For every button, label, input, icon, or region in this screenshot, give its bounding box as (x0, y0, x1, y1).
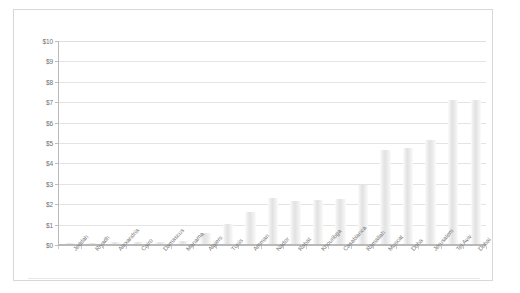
y-axis-tick-mark (55, 184, 58, 185)
bar (397, 40, 420, 244)
bar-rect (313, 200, 323, 244)
x-axis-tick-mark (373, 246, 374, 249)
y-axis-tick-label: $3 (46, 180, 53, 187)
y-axis-tick-label: $8 (46, 78, 53, 85)
bottom-rule (28, 278, 480, 279)
y-axis-tick-label: $4 (46, 160, 53, 167)
x-axis-tick-mark (396, 246, 397, 249)
y-axis: $0$1$2$3$4$5$6$7$8$9$10 (14, 10, 58, 280)
x-axis-tick-mark (171, 246, 172, 249)
bar (172, 40, 195, 244)
x-axis-tick-mark (58, 246, 59, 249)
bar (217, 40, 240, 244)
x-axis-tick-mark (418, 246, 419, 249)
y-axis-tick-label: $5 (46, 140, 53, 147)
y-axis-tick-label: $2 (46, 201, 53, 208)
bar-rect (425, 140, 435, 244)
x-axis-tick-mark (486, 246, 487, 249)
bar-rect (403, 148, 413, 244)
bar (149, 40, 172, 244)
x-axis-tick-mark (193, 246, 194, 249)
bar (307, 40, 330, 244)
y-axis-tick-label: $1 (46, 221, 53, 228)
bar-rect (133, 242, 143, 244)
x-axis-tick-mark (148, 246, 149, 249)
x-axis-tick-mark (328, 246, 329, 249)
x-axis-tick-mark (463, 246, 464, 249)
x-axis-tick-mark (261, 246, 262, 249)
bar-rect (178, 241, 188, 244)
bar-rect (471, 100, 481, 244)
y-axis-tick-mark (55, 143, 58, 144)
bar-rect (223, 224, 233, 244)
bar (104, 40, 127, 244)
y-axis-tick-label: $6 (46, 119, 53, 126)
bar-rect (290, 201, 300, 244)
bar (329, 40, 352, 244)
bar (262, 40, 285, 244)
x-axis-tick-mark (351, 246, 352, 249)
bar (419, 40, 442, 244)
bar-rect (110, 242, 120, 244)
x-axis-tick-mark (238, 246, 239, 249)
bar (239, 40, 262, 244)
y-axis-tick-mark (55, 61, 58, 62)
y-axis-tick-label: $0 (46, 242, 53, 249)
bar (442, 40, 465, 244)
x-axis-tick-mark (216, 246, 217, 249)
plot-area (58, 41, 486, 245)
y-axis-tick-mark (55, 163, 58, 164)
x-axis-labels: JeddahRiyadhAlexandriaCairoDamascusManam… (58, 246, 486, 292)
x-axis-tick-mark (103, 246, 104, 249)
bar (284, 40, 307, 244)
y-axis-tick-mark (55, 225, 58, 226)
y-axis-tick-label: $10 (42, 38, 53, 45)
x-axis-tick-mark (306, 246, 307, 249)
bar-rect (448, 100, 458, 244)
bar (59, 40, 82, 244)
y-axis-tick-mark (55, 102, 58, 103)
chart-frame: $0$1$2$3$4$5$6$7$8$9$10 JeddahRiyadhAlex… (13, 9, 493, 281)
x-axis-tick-mark (441, 246, 442, 249)
bar (374, 40, 397, 244)
x-axis-tick-mark (81, 246, 82, 249)
y-axis-tick-label: $9 (46, 58, 53, 65)
y-axis-tick-label: $7 (46, 99, 53, 106)
y-axis-tick-mark (55, 82, 58, 83)
y-axis-tick-mark (55, 123, 58, 124)
bar (464, 40, 487, 244)
y-axis-tick-mark (55, 41, 58, 42)
x-axis-tick-mark (283, 246, 284, 249)
y-axis-tick-mark (55, 204, 58, 205)
bar (352, 40, 375, 244)
bar (82, 40, 105, 244)
bar-rect (155, 242, 165, 244)
bar (127, 40, 150, 244)
x-axis-tick-mark (126, 246, 127, 249)
bar (194, 40, 217, 244)
bar-rect (245, 212, 255, 244)
